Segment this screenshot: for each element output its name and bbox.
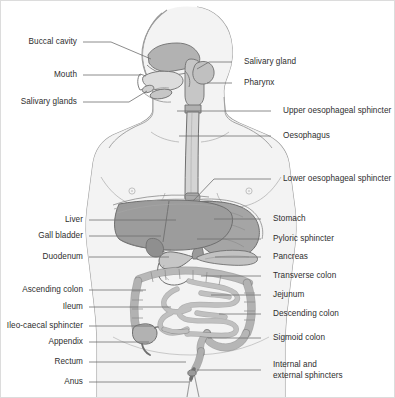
label-pharynx: Pharynx (244, 78, 274, 89)
label-stomach: Stomach (273, 214, 306, 225)
label-upper-oesophageal-sphincter: Upper oesophageal sphincter (283, 106, 391, 117)
internal-external-sphincters-shape (188, 370, 196, 376)
label-ileo-caecal-sphincter: Ileo-caecal sphincter (7, 321, 83, 332)
label-anus: Anus (64, 377, 83, 388)
label-mouth: Mouth (54, 70, 77, 81)
label-buccal-cavity: Buccal cavity (29, 37, 77, 48)
label-pancreas: Pancreas (273, 252, 308, 263)
label-salivary-gland: Salivary gland (244, 57, 296, 68)
label-liver: Liver (65, 215, 83, 226)
label-appendix: Appendix (48, 337, 83, 348)
label-gall-bladder: Gall bladder (38, 231, 83, 242)
label-jejunum: Jejunum (273, 290, 304, 301)
liver-shape (115, 200, 233, 250)
caecum-shape (132, 324, 157, 344)
label-salivary-glands: Salivary glands (21, 97, 77, 108)
label-ascending-colon: Ascending colon (22, 285, 83, 296)
label-descending-colon: Descending colon (273, 309, 339, 320)
digestive-system-figure: Buccal cavityMouthSalivary glandsLiverGa… (0, 0, 395, 398)
label-rectum: Rectum (54, 357, 83, 368)
label-sigmoid-colon: Sigmoid colon (273, 333, 325, 344)
label-oesophagus: Oesophagus (283, 131, 330, 142)
label-ileum: Ileum (63, 302, 83, 313)
label-lower-oesophageal-sphincter: Lower oesophageal sphincter (283, 174, 391, 185)
leader-salivary-glands (83, 91, 147, 102)
label-duodenum: Duodenum (43, 252, 83, 263)
label-internal-and-external-sphincters: Internal and external sphincters (273, 360, 343, 381)
label-pyloric-sphincter: Pyloric sphincter (273, 234, 334, 245)
leader-buccal-cavity (83, 42, 151, 59)
label-transverse-colon: Transverse colon (273, 271, 336, 282)
